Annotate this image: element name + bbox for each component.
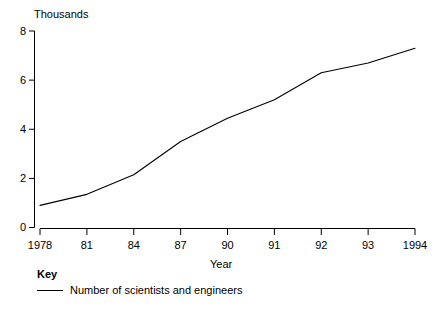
x-axis-tick-label: 1994 xyxy=(403,240,427,251)
key-entry-label: Number of scientists and engineers xyxy=(70,284,242,297)
y-axis-tick-label: 0 xyxy=(12,222,26,233)
y-axis-group xyxy=(29,31,35,228)
x-axis-tick-label: 1978 xyxy=(28,240,52,251)
x-axis-tick-label: 87 xyxy=(175,240,187,251)
x-axis-tick-label: 91 xyxy=(268,240,280,251)
x-axis-tick-label: 81 xyxy=(81,240,93,251)
y-axis-tick-label: 6 xyxy=(12,75,26,86)
x-axis-tick-label: 90 xyxy=(221,240,233,251)
chart-key: Key Number of scientists and engineers xyxy=(37,268,242,297)
y-axis-tick-label: 4 xyxy=(12,124,26,135)
line-chart: Thousands 02468 1978818487909192931994 Y… xyxy=(0,0,441,309)
y-axis-tick-label: 8 xyxy=(12,26,26,37)
x-axis-tick-label: 84 xyxy=(128,240,140,251)
x-axis-group xyxy=(40,229,415,236)
key-line-swatch-icon xyxy=(37,290,63,291)
y-axis-ticks xyxy=(29,31,35,228)
x-axis-tick-label: 93 xyxy=(362,240,374,251)
y-axis-tick-label: 2 xyxy=(12,173,26,184)
key-entry: Number of scientists and engineers xyxy=(37,284,242,297)
series-line-scientists-and-engineers xyxy=(40,48,415,205)
x-axis-ticks xyxy=(40,229,415,236)
key-title: Key xyxy=(37,268,242,281)
x-axis-tick-label: 92 xyxy=(315,240,327,251)
